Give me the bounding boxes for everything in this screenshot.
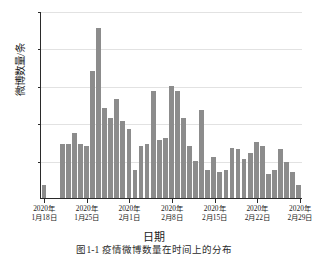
- x-tick-mark: [44, 199, 45, 203]
- bar: [242, 159, 247, 198]
- bar: [254, 142, 259, 198]
- y-axis-title: 微博数量/条: [12, 15, 27, 125]
- bar: [278, 149, 283, 198]
- bar: [120, 121, 125, 198]
- bar: [139, 146, 144, 198]
- bar: [96, 28, 101, 198]
- x-tick-mark: [300, 199, 301, 203]
- x-tick-mark: [215, 199, 216, 203]
- x-tick-mark: [129, 199, 130, 203]
- bar: [108, 118, 113, 198]
- bar: [78, 144, 83, 198]
- bar: [72, 133, 77, 198]
- bar-slot: [296, 12, 302, 198]
- bar: [272, 170, 277, 198]
- bar: [211, 157, 216, 198]
- bar: [199, 110, 204, 198]
- x-tick-mark: [257, 199, 258, 203]
- bar: [260, 146, 265, 198]
- bar: [187, 146, 192, 198]
- bar: [90, 71, 95, 198]
- bar: [193, 161, 198, 198]
- bar: [66, 144, 71, 198]
- bar: [102, 108, 107, 198]
- bar: [205, 170, 210, 198]
- bar: [114, 99, 119, 198]
- figure-caption: 图1-1 疫情微博数量在时间上的分布: [0, 242, 308, 256]
- bar: [296, 185, 301, 198]
- x-tick-mark: [87, 199, 88, 203]
- bar: [175, 91, 180, 198]
- bar: [133, 170, 138, 198]
- bar: [248, 153, 253, 198]
- bar: [266, 174, 271, 198]
- bar: [151, 91, 156, 198]
- bar: [236, 149, 241, 198]
- bar: [169, 86, 174, 198]
- bar: [284, 162, 289, 198]
- bar-series: [41, 12, 302, 198]
- bar: [217, 172, 222, 198]
- bar: [42, 185, 47, 198]
- x-tick-label-year: 2020年: [270, 204, 320, 213]
- x-tick-mark: [172, 199, 173, 203]
- bar: [290, 172, 295, 198]
- bar: [181, 118, 186, 198]
- x-tick-label-date: 2月29日: [270, 213, 320, 222]
- bar: [230, 148, 235, 198]
- x-tick-label: 2020年2月29日: [270, 204, 320, 222]
- bar: [163, 138, 168, 198]
- bar: [145, 144, 150, 198]
- bar: [60, 144, 65, 198]
- plot-area: 20406080100 2020年1月18日2020年1月25日2020年2月1…: [40, 12, 302, 199]
- bar: [224, 170, 229, 198]
- bar: [127, 129, 132, 198]
- bar: [84, 146, 89, 198]
- bar: [157, 140, 162, 198]
